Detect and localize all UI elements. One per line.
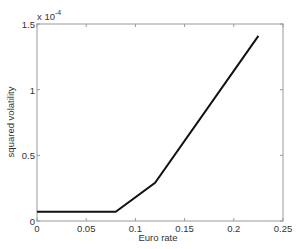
y-tick-label: 1.5 [22,19,35,30]
x-tick-label: 0.15 [175,223,194,234]
y-tick-label: 0.5 [22,150,35,161]
y-exponent-label: x 10-4 [37,9,61,22]
y-tick-label: 0 [30,216,35,227]
data-line [37,36,258,212]
x-axis-label: Euro rate [138,232,177,243]
x-tick-label: 0.2 [227,223,240,234]
x-tick-label: 0 [34,223,39,234]
y-tick-label: 1 [30,85,35,96]
x-tick-label: 0.05 [77,223,96,234]
plot-area: 00.050.10.150.20.2500.511.5 [22,19,292,234]
y-axis-label: squared volatility [5,86,16,157]
x-tick-label: 0.25 [274,223,293,234]
chart: 00.050.10.150.20.2500.511.5 Euro rate sq… [0,0,305,249]
